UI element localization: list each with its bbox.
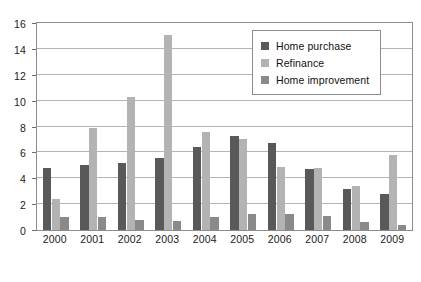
bar-group [380,23,406,230]
bar [285,214,293,230]
y-axis: 0246810121416 [0,22,32,231]
x-axis-tick-label: 2005 [230,233,254,245]
bar [193,147,201,230]
x-axis-tick-label: 2000 [43,233,67,245]
y-axis-tick-label: 6 [20,147,26,159]
bar [210,217,218,230]
bar [268,143,276,230]
bar [360,222,368,230]
bar [60,217,68,230]
bar [155,158,163,230]
bar-group [193,23,219,230]
bar [305,169,313,230]
bar [248,214,256,230]
y-axis-tick-label: 12 [14,70,26,82]
x-axis-tick-label: 2004 [193,233,217,245]
bar [164,35,172,230]
legend-swatch-icon [261,59,269,67]
y-axis-tick-label: 0 [20,225,26,237]
bar [230,136,238,230]
legend-item-label: Home purchase [276,40,351,52]
bar [127,97,135,230]
bar-group [80,23,106,230]
bar [98,217,106,230]
bar [80,165,88,230]
bar [202,132,210,230]
legend-item-label: Refinance [276,57,324,69]
bar-chart: 0246810121416 20002001200220032004200520… [0,0,421,282]
bar [239,139,247,230]
bar-group [118,23,144,230]
bar [343,189,351,230]
bar [277,167,285,230]
bar [323,216,331,230]
bar [389,155,397,230]
x-axis-tick-label: 2009 [380,233,404,245]
bar [398,225,406,230]
x-axis: 2000200120022003200420052006200720082009 [36,233,413,253]
legend-swatch-icon [261,42,269,50]
bar [43,168,51,230]
y-axis-tick-label: 8 [20,122,26,134]
y-axis-tick-label: 14 [14,44,26,56]
y-axis-tick-label: 2 [20,199,26,211]
bar [89,128,97,230]
bar [173,221,181,230]
bar [118,163,126,230]
y-axis-tick-label: 4 [20,173,26,185]
legend-item: Home purchase [261,37,369,54]
y-axis-tick-label: 10 [14,96,26,108]
x-axis-tick-label: 2001 [80,233,104,245]
legend-item: Refinance [261,54,369,71]
legend: Home purchaseRefinanceHome improvement [252,30,381,95]
x-axis-tick-label: 2002 [118,233,142,245]
y-axis-tick-label: 16 [14,18,26,30]
bar [314,168,322,230]
bar-group [155,23,181,230]
bar [135,220,143,230]
legend-item: Home improvement [261,71,369,88]
x-axis-tick-label: 2006 [268,233,292,245]
x-axis-tick-label: 2007 [305,233,329,245]
bar [352,186,360,230]
bar [380,194,388,230]
x-axis-tick-label: 2008 [343,233,367,245]
legend-swatch-icon [261,76,269,84]
x-axis-tick-label: 2003 [155,233,179,245]
bar [52,199,60,230]
legend-item-label: Home improvement [276,74,369,86]
bar-group [43,23,69,230]
